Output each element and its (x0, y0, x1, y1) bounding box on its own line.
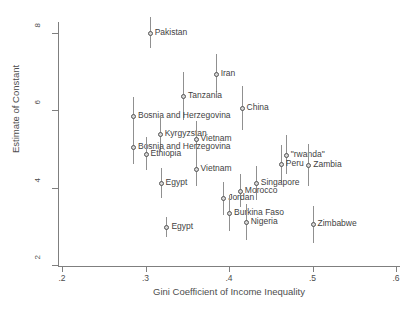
data-point-label: Jordan (228, 193, 254, 202)
data-point-label: Egypt (171, 222, 193, 231)
data-point[interactable] (158, 132, 163, 137)
data-point-label: China (247, 103, 269, 112)
data-point-label: Tanzania (188, 91, 222, 100)
x-tick (62, 266, 63, 272)
data-point-label: Zimbabwe (318, 219, 357, 228)
x-tick (313, 266, 314, 272)
data-point-label: Ethiopia (151, 149, 182, 158)
y-axis-title: Estimate of Constant (11, 19, 21, 199)
data-point-label: Vietnam (201, 164, 232, 173)
x-tick-label: .6 (384, 274, 408, 283)
data-point-label: Bosnia and Herzegovina (138, 111, 231, 120)
data-point[interactable] (279, 162, 284, 167)
data-point[interactable] (240, 106, 245, 111)
scatter-plot-figure: 2468 .2.3.4.5.6 Estimate of Constant Gin… (0, 0, 418, 313)
data-point[interactable] (227, 211, 232, 216)
x-tick (396, 266, 397, 272)
data-point-label: Zambia (313, 160, 341, 169)
x-tick (146, 266, 147, 272)
figure-footnote (62, 302, 362, 311)
x-tick (229, 266, 230, 272)
data-point-label: Nigeria (251, 217, 278, 226)
data-point[interactable] (311, 222, 316, 227)
y-tick-label: 2 (34, 255, 42, 275)
y-tick-label: 8 (34, 23, 42, 43)
x-tick-label: .4 (217, 274, 241, 283)
x-tick-label: .3 (134, 274, 158, 283)
data-point[interactable] (159, 181, 164, 186)
y-tick-label: 6 (34, 100, 42, 120)
data-point[interactable] (144, 152, 149, 157)
x-tick-label: .5 (301, 274, 325, 283)
data-point[interactable] (148, 31, 153, 36)
data-point-label: Egypt (166, 178, 188, 187)
data-point[interactable] (194, 167, 199, 172)
x-axis-title: Gini Coefficient of Income Inequality (58, 287, 400, 297)
data-point-label: Peru (286, 159, 304, 168)
data-point-label: Pakistan (155, 28, 188, 37)
data-point[interactable] (214, 72, 219, 77)
data-point[interactable] (244, 220, 249, 225)
y-tick-label: 4 (34, 178, 42, 198)
x-tick-label: .2 (50, 274, 74, 283)
data-point-label: Iran (221, 69, 236, 78)
data-point[interactable] (181, 94, 186, 99)
data-point[interactable] (131, 145, 136, 150)
